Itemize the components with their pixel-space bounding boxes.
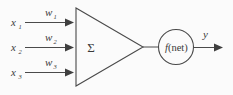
input-subscript-x1: 1	[19, 23, 22, 30]
output-row: y	[194, 28, 224, 52]
input-label-x1: x	[10, 16, 16, 28]
summation-triangle	[76, 8, 143, 86]
summation-node: Σ	[76, 8, 143, 86]
activation-node: f(net)	[159, 30, 194, 65]
weight-subscript-w1: 1	[54, 13, 57, 20]
activation-arg-label: (net)	[168, 42, 188, 54]
arrow-right-icon-input-2	[65, 44, 74, 52]
weight-label-w3: w	[45, 56, 53, 68]
arrow-right-icon-input-1	[65, 19, 74, 27]
output-label-y: y	[202, 28, 208, 40]
arrow-right-icon-input-3	[65, 69, 74, 77]
neuron-diagram: x 1 w 1 x 2 w 2 x 3 w 3 Σ	[0, 0, 233, 95]
arrow-right-icon-output	[214, 44, 223, 52]
weight-label-w2: w	[45, 31, 53, 43]
input-row-2: x 2 w 2	[10, 31, 74, 55]
input-subscript-x3: 3	[18, 73, 23, 80]
input-row-3: x 3 w 3	[10, 56, 74, 80]
input-subscript-x2: 2	[19, 48, 23, 55]
input-label-x3: x	[10, 66, 16, 78]
activation-label: f(net)	[165, 42, 188, 54]
input-row-1: x 1 w 1	[10, 6, 74, 30]
weight-subscript-w2: 2	[54, 38, 58, 45]
sigma-icon: Σ	[87, 40, 95, 55]
input-label-x2: x	[10, 41, 16, 53]
weight-label-w1: w	[45, 6, 53, 18]
weight-subscript-w3: 3	[53, 63, 58, 70]
neuron-diagram-canvas: x 1 w 1 x 2 w 2 x 3 w 3 Σ	[0, 0, 233, 95]
